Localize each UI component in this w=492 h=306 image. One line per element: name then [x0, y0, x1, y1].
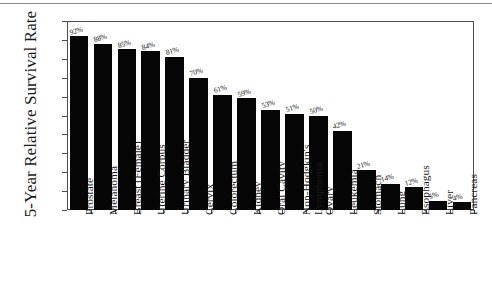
survival-rate-bar-chart: 5-Year Relative Survival Rate 0102030405…: [0, 0, 492, 306]
x-category-label: Esophagus: [419, 165, 431, 215]
x-category-label-line: Prostate: [83, 178, 95, 215]
x-category-label-line: Colorectum: [227, 161, 239, 215]
x-category-label-line: Esophagus: [419, 165, 431, 215]
x-category-label: Uterine Corpus: [155, 144, 167, 215]
x-category-label: Kidney: [251, 181, 263, 215]
x-category-label-line: Uterine Corpus: [155, 144, 167, 215]
x-category-label-line: Breast (Female): [131, 141, 143, 215]
x-category-label: Stomach: [371, 175, 383, 215]
x-category-label: Lung: [395, 191, 407, 215]
x-category-label: Breast (Female): [131, 141, 143, 215]
x-category-label: Liver: [443, 190, 455, 215]
x-category-label: Prostate: [83, 178, 95, 215]
x-category-label: Ovary: [323, 186, 335, 215]
x-axis-category-labels: ProstateMelanomaBreast (Female)Uterine C…: [0, 0, 492, 306]
x-category-label-line: Stomach: [371, 175, 383, 215]
x-category-label-line: Non-Hodgkin's: [300, 145, 312, 215]
x-category-label-line: Ovary: [323, 186, 335, 215]
x-category-label: Cervix: [203, 184, 215, 215]
x-category-label-line: Melanoma: [107, 166, 119, 215]
x-category-label-line: Leukemia: [347, 169, 359, 215]
x-category-label-line: Liver: [443, 190, 455, 215]
x-category-label-line: Pancreas: [467, 174, 479, 215]
x-category-label-line: Urinary Bladder: [179, 140, 191, 215]
x-category-label: Pancreas: [467, 174, 479, 215]
x-category-label-line: Lung: [395, 191, 407, 215]
x-category-label: Melanoma: [107, 166, 119, 215]
x-category-label: Leukemia: [347, 169, 359, 215]
x-category-label: Colorectum: [227, 161, 239, 215]
x-category-label: Urinary Bladder: [179, 140, 191, 215]
x-category-label-line: Cervix: [203, 184, 215, 215]
x-category-label: Oral Cavity: [275, 161, 287, 215]
x-category-label-line: Oral Cavity: [275, 161, 287, 215]
x-category-label-line: Kidney: [251, 181, 263, 215]
x-category-label: Non-Hodgkin'sLymphoma: [300, 145, 324, 215]
